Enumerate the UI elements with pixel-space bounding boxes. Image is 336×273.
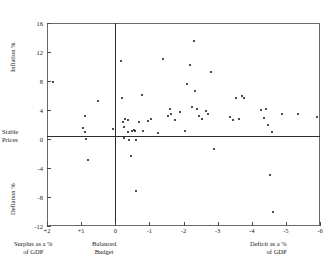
data-point (193, 40, 195, 42)
x-tick-label: -3 (215, 227, 220, 234)
data-point (196, 108, 198, 110)
data-point (281, 113, 283, 115)
balanced-budget-caption-line2: Budget (92, 248, 116, 256)
surplus-caption-line2: of GDP (14, 248, 52, 256)
surplus-caption-line1: Surplus as a % (14, 240, 52, 248)
data-point (198, 115, 200, 117)
surplus-caption: Surplus as a % of GDP (14, 240, 52, 256)
y-tick (47, 23, 51, 24)
data-point (127, 119, 129, 121)
data-point (112, 128, 114, 130)
y-tick-label: 8 (40, 78, 43, 85)
data-point (265, 108, 267, 110)
y-tick (47, 52, 51, 53)
data-point (130, 155, 132, 157)
data-point (260, 109, 262, 111)
data-point (134, 130, 136, 132)
x-tick (115, 222, 116, 226)
data-point (184, 130, 186, 132)
deficit-caption: Deficit as a % of GDP (250, 240, 287, 256)
data-point (297, 113, 299, 115)
x-tick (286, 222, 287, 226)
y-tick (47, 197, 51, 198)
data-point (128, 139, 130, 141)
y-tick-label: -8 (38, 194, 43, 201)
data-point (85, 138, 87, 140)
data-point (157, 132, 159, 134)
data-point (186, 83, 188, 85)
data-point (232, 119, 234, 121)
data-point (169, 108, 171, 110)
x-tick-label: -4 (249, 227, 254, 234)
data-point (267, 124, 269, 126)
deficit-caption-line1: Deficit as a % (250, 240, 287, 248)
x-tick (81, 222, 82, 226)
zero-vertical-reference-line (115, 23, 116, 226)
data-point (235, 97, 237, 99)
data-point (243, 97, 245, 99)
data-point (269, 174, 271, 176)
scatter-chart: +2+10-1-2-3-4-5-6 161284-4-8-120 Stable … (0, 0, 336, 273)
x-tick-label: 0 (114, 227, 117, 234)
plot-area (47, 23, 320, 226)
data-point (138, 121, 140, 123)
data-point (210, 71, 212, 73)
y-tick-label: 4 (40, 107, 43, 114)
data-point (135, 139, 137, 141)
data-point (170, 113, 172, 115)
deficit-caption-line2: of GDP (250, 248, 287, 256)
data-point (201, 118, 203, 120)
data-point (167, 115, 169, 117)
data-point (189, 64, 191, 66)
data-point (135, 190, 137, 192)
x-tick (149, 222, 150, 226)
data-point (123, 126, 125, 128)
data-point (84, 131, 86, 133)
data-point (82, 127, 84, 129)
y-tick (47, 110, 51, 111)
data-point (123, 137, 125, 139)
y-tick-label: -12 (34, 223, 43, 230)
data-point (97, 100, 99, 102)
x-tick (218, 222, 219, 226)
data-point (316, 116, 318, 118)
inflation-axis-label: Inflation % (9, 43, 16, 72)
x-tick-label: +1 (78, 227, 85, 234)
stable-prices-line2: Prices (2, 136, 18, 144)
data-point (191, 106, 193, 108)
data-point (52, 81, 54, 83)
data-point (229, 116, 231, 118)
stable-prices-line1: Stable (2, 128, 18, 136)
x-tick-label: -1 (147, 227, 152, 234)
y-tick-label-zero: 0 (40, 136, 43, 143)
data-point (122, 121, 124, 123)
balanced-budget-caption-line1: Balanced (92, 240, 116, 248)
chart-title (0, 0, 336, 2)
x-tick (184, 222, 185, 226)
data-point (179, 111, 181, 113)
x-tick-label: -6 (317, 227, 322, 234)
data-point (127, 131, 129, 133)
data-point (150, 118, 152, 120)
zero-horizontal-reference-line (47, 136, 320, 137)
data-point (272, 211, 274, 213)
y-tick-label: 12 (37, 49, 44, 56)
data-point (238, 118, 240, 120)
x-tick (252, 222, 253, 226)
balanced-budget-caption: Balanced Budget (92, 240, 116, 256)
x-tick-label: +2 (44, 227, 51, 234)
x-tick-label: -5 (283, 227, 288, 234)
data-point (207, 113, 209, 115)
data-point (263, 117, 265, 119)
data-point (142, 130, 144, 132)
y-tick-label: -4 (38, 165, 43, 172)
data-point (174, 119, 176, 121)
data-point (87, 159, 89, 161)
data-point (241, 95, 243, 97)
stable-prices-label: Stable Prices (2, 128, 18, 144)
data-point (194, 90, 196, 92)
x-tick-label: -2 (181, 227, 186, 234)
data-point (271, 131, 273, 133)
y-tick (47, 139, 51, 140)
deflation-axis-label: Deflation % (9, 183, 16, 215)
